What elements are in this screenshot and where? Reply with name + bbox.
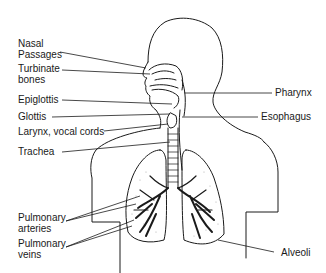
label-trachea: Trachea	[18, 146, 54, 157]
label-glottis: Glottis	[18, 111, 46, 122]
label-larynx-vocal-cords: Larynx, vocal cords	[18, 126, 104, 137]
label-line: arteries	[18, 223, 66, 234]
label-epiglottis: Epiglottis	[18, 94, 59, 105]
label-line: Pulmonary	[18, 238, 66, 249]
label-pharynx: Pharynx	[275, 87, 312, 98]
label-nasal-passages: Nasal Passages	[18, 38, 62, 60]
nasal-cavity	[149, 64, 183, 90]
label-alveoli: Alveoli	[281, 247, 310, 258]
label-pulmonary-veins: Pulmonary veins	[18, 238, 66, 260]
head-outline	[148, 18, 264, 142]
label-pulmonary-arteries: Pulmonary arteries	[18, 212, 66, 234]
label-line: veins	[18, 249, 66, 260]
label-turbinate-bones: Turbinate bones	[18, 63, 60, 85]
larynx	[167, 113, 177, 128]
oral-cavity	[152, 89, 179, 108]
label-line: Passages	[18, 49, 62, 60]
label-line: Turbinate	[18, 63, 60, 74]
label-line: bones	[18, 74, 60, 85]
label-line: Pulmonary	[18, 212, 66, 223]
torso-right	[246, 142, 278, 258]
label-line: Nasal	[18, 38, 62, 49]
respiratory-diagram: Nasal Passages Turbinate bones Epiglotti…	[0, 0, 326, 273]
label-esophagus: Esophagus	[261, 111, 311, 122]
